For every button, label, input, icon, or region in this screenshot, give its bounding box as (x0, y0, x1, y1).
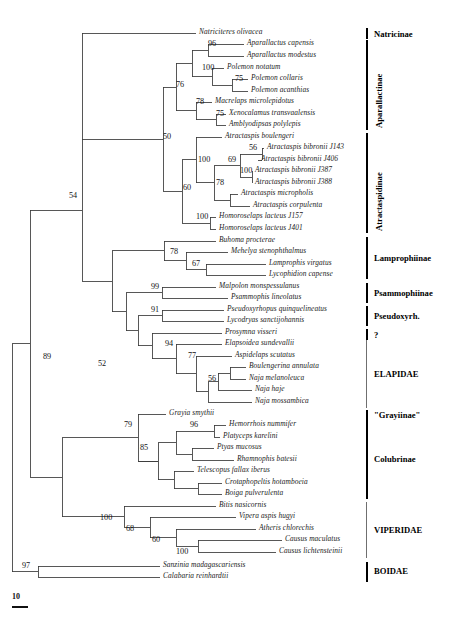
taxon-label: Grayia smythii (169, 409, 214, 417)
taxon-label: Hemorrhois nummifer (229, 420, 296, 428)
taxon-label: Telescopus fallax iberus (197, 466, 270, 474)
clade-bracket (366, 410, 368, 421)
bootstrap-support-value: 96 (208, 40, 216, 48)
taxon-label: Platyceps karelini (223, 432, 278, 440)
bootstrap-support-value: 96 (190, 421, 198, 429)
clade-label: Psammophiinae (374, 288, 433, 298)
scale-bar (12, 606, 28, 608)
bootstrap-support-value: 100 (176, 548, 188, 556)
bootstrap-support-value: 100 (100, 514, 112, 522)
bootstrap-support-value: 75 (216, 110, 224, 118)
clade-bracket (366, 40, 368, 130)
bootstrap-support-value: 78 (196, 98, 204, 106)
bootstrap-support-value: 67 (192, 260, 200, 268)
taxon-label: Atractaspis bibronii J387 (255, 166, 332, 174)
clade-label: Pseudoxyrh. (374, 311, 420, 321)
taxon-label: Naja haje (255, 385, 285, 393)
bootstrap-support-value: 54 (69, 192, 77, 200)
bootstrap-support-value: 60 (152, 536, 160, 544)
bootstrap-support-value: 85 (140, 444, 148, 452)
bootstrap-support-value: 56 (249, 144, 257, 152)
taxon-label: Atractaspis micropholis (241, 189, 313, 197)
bootstrap-support-value: 52 (98, 360, 106, 368)
phylogenetic-tree-figure: Natriciteres olivaceaAparallactus capens… (0, 0, 464, 626)
taxon-label: Polemon acanthias (251, 86, 309, 94)
bootstrap-support-value: 75 (235, 75, 243, 83)
bootstrap-support-value: 76 (176, 81, 184, 89)
bootstrap-support-value: 50 (163, 133, 171, 141)
bootstrap-support-value: 94 (165, 340, 173, 348)
bootstrap-support-value: 69 (228, 156, 236, 164)
taxon-label: Atractaspis corpulenta (253, 201, 322, 209)
taxon-label: Polemon collaris (251, 74, 303, 82)
clade-label: Colubrinae (374, 454, 416, 464)
bootstrap-support-value: 100 (198, 156, 210, 164)
taxon-label: Lycodryas sanctijohannis (227, 316, 304, 324)
bootstrap-support-value: 78 (216, 179, 224, 187)
clade-bracket (366, 502, 367, 558)
clade-label: "Grayiinae" (374, 410, 420, 420)
taxon-label: Pseudoxyrhopus quinquelineatus (227, 305, 327, 313)
taxon-label: Lamprophis virgatus (269, 259, 332, 267)
taxon-label: Causus lichtensteinii (279, 547, 342, 555)
bootstrap-support-value: 56 (208, 375, 216, 383)
bootstrap-support-value: 77 (188, 352, 196, 360)
clade-bracket (366, 562, 368, 582)
taxon-label: Malpolon monspessulanus (219, 282, 299, 290)
taxon-label: Lycophidion capense (269, 270, 333, 278)
taxon-label: Buhoma procterae (219, 236, 275, 244)
taxon-label: Naja mossambica (255, 397, 309, 405)
clade-bracket (366, 133, 368, 233)
taxon-label: Amblyodipsas polylepis (229, 120, 301, 128)
taxon-label: Atractaspis boulengeri (225, 132, 294, 140)
taxon-label: Elapsoidea sundevallii (225, 339, 294, 347)
taxon-label: Rhamnophis batesii (237, 455, 297, 463)
clade-label: Aparallactinae (374, 74, 384, 128)
clade-label: Natricinae (374, 29, 413, 39)
taxon-label: Boiga pulverulenta (225, 489, 283, 497)
taxon-label: Boulengerina annulata (249, 362, 319, 370)
bootstrap-support-value: 78 (170, 248, 178, 256)
taxon-label: Atractaspis bibronii J406 (261, 155, 338, 163)
bootstrap-support-value: 97 (22, 562, 30, 570)
taxon-label: Atractaspis bibronii J388 (255, 178, 332, 186)
bootstrap-support-value: 100 (202, 64, 214, 72)
clade-bracket (366, 28, 368, 39)
taxon-label: Aparallactus capensis (247, 39, 314, 47)
taxon-label: Bitis nasicornis (219, 501, 266, 509)
bootstrap-support-value: 100 (196, 213, 208, 221)
bootstrap-support-value: 100 (240, 167, 252, 175)
clade-bracket (366, 340, 367, 408)
bootstrap-support-value: 89 (43, 353, 51, 361)
taxon-label: Atractaspis bibronii J143 (267, 143, 344, 151)
taxon-label: Homoroselaps lacteus J157 (219, 212, 303, 220)
taxon-label: Homoroselaps lacteus J401 (219, 224, 303, 232)
taxon-label: Psammophis lineolatus (231, 293, 301, 301)
scale-bar-value: 10 (12, 592, 20, 601)
taxon-label: Macrelaps microlepidotus (215, 97, 294, 105)
taxon-label: Aparallactus modestus (247, 51, 316, 59)
clade-label: Atractaspidinae (374, 172, 384, 231)
clade-label: ? (374, 330, 378, 340)
clade-bracket (366, 283, 368, 303)
taxon-label: Natriciteres olivacea (199, 28, 262, 36)
bootstrap-support-value: 60 (183, 184, 191, 192)
bootstrap-support-value: 91 (151, 306, 159, 314)
taxon-label: Calabaria reinhardtii (163, 572, 228, 580)
taxon-label: Xenocalamus transvaalensis (229, 109, 315, 117)
taxon-label: Causus maculatus (285, 535, 340, 543)
taxon-label: Sanzinia madagascariensis (163, 561, 246, 569)
clade-label: Lamprophiinae (374, 253, 431, 263)
taxon-label: Aspidelaps scutatus (235, 351, 295, 359)
taxon-label: Mehelya stenophthalmus (231, 247, 306, 255)
clade-bracket (366, 306, 368, 326)
clade-bracket (366, 237, 368, 279)
clade-label: ELAPIDAE (374, 369, 418, 379)
taxon-label: Crotaphopeltis hotamboeia (225, 478, 308, 486)
bootstrap-support-value: 79 (124, 421, 132, 429)
bootstrap-support-value: 99 (151, 283, 159, 291)
taxon-label: Polemon notatum (227, 63, 280, 71)
bootstrap-support-value: 68 (126, 525, 134, 533)
clade-label: BOIDAE (374, 566, 408, 576)
taxon-label: Atheris chlorechis (259, 524, 314, 532)
